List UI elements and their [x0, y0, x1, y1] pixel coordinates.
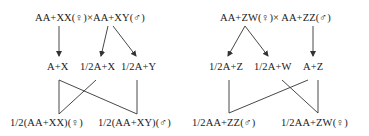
left-gamete-ax: A+X [47, 61, 68, 73]
left-parents-label: AA+XX(♀)×AA+XY(♂) [35, 12, 145, 24]
left-gamete-half-ay: 1/2A+Y [121, 61, 156, 73]
right-parents-label: AA+ZW(♀)× AA+ZZ(♂) [220, 12, 331, 24]
right-arrows [228, 26, 313, 56]
arrow-xy-to-ax [101, 26, 108, 56]
arrow-xy-to-ay [113, 26, 136, 56]
left-offspring-male: 1/2(AA+XY)(♂) [98, 117, 171, 129]
arrow-zw-to-aw [245, 26, 268, 56]
left-arrows [59, 26, 136, 56]
right-offspring-female: 1/2AA+ZW(♀) [281, 117, 348, 129]
right-gamete-az: A+Z [303, 61, 323, 73]
right-gamete-half-az: 1/2A+Z [209, 61, 243, 73]
left-gamete-half-ax: 1/2A+X [80, 61, 115, 73]
right-cross-lines [229, 80, 318, 113]
right-gamete-half-aw: 1/2A+W [254, 61, 291, 73]
right-offspring-male: 1/2AA+ZZ(♂) [192, 117, 255, 129]
left-cross-lines [59, 80, 137, 114]
left-offspring-female: 1/2(AA+XX)(♀) [10, 117, 83, 129]
arrow-zw-to-az [228, 26, 245, 56]
